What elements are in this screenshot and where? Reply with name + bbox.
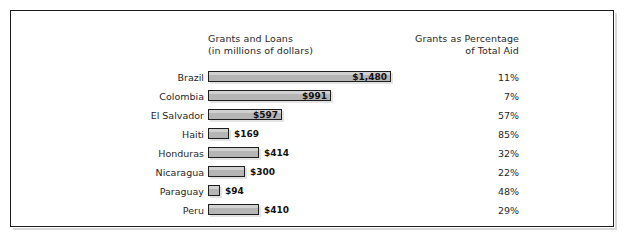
chart-row: Honduras$41432% bbox=[11, 145, 625, 164]
percent-column-header: Grants as Percentage of Total Aid bbox=[389, 33, 519, 57]
bar-value-label: $410 bbox=[264, 205, 289, 216]
country-label: Haiti bbox=[182, 129, 204, 141]
percent-value: 11% bbox=[389, 72, 519, 84]
percent-column-header-line1: Grants as Percentage bbox=[389, 33, 519, 45]
chart-row: Colombia$9917% bbox=[11, 88, 625, 107]
bar-value-label: $94 bbox=[225, 186, 244, 197]
bar-container: $597 bbox=[208, 109, 282, 124]
percent-value: 29% bbox=[389, 205, 519, 217]
chart-rows: Brazil$1,48011%Colombia$9917%El Salvador… bbox=[11, 69, 625, 221]
chart-figure: Grants and Loans (in millions of dollars… bbox=[0, 0, 625, 242]
bar-container: $169 bbox=[208, 128, 229, 143]
percent-value: 22% bbox=[389, 167, 519, 179]
bar-container: $991 bbox=[208, 90, 331, 105]
bar-value-label: $169 bbox=[234, 129, 259, 140]
bar-container: $94 bbox=[208, 185, 220, 200]
value-bar bbox=[208, 166, 245, 177]
chart-row: El Salvador$59757% bbox=[11, 107, 625, 126]
chart-row: Nicaragua$30022% bbox=[11, 164, 625, 183]
percent-value: 48% bbox=[389, 186, 519, 198]
percent-value: 85% bbox=[389, 129, 519, 141]
value-bar bbox=[208, 128, 229, 139]
country-label: Colombia bbox=[159, 91, 204, 103]
bar-container: $300 bbox=[208, 166, 245, 181]
chart-row: Haiti$16985% bbox=[11, 126, 625, 145]
country-label: El Salvador bbox=[151, 110, 204, 122]
bar-value-label: $597 bbox=[253, 110, 278, 121]
country-label: Paraguay bbox=[160, 186, 204, 198]
bar-value-label: $300 bbox=[250, 167, 275, 178]
chart-row: Brazil$1,48011% bbox=[11, 69, 625, 88]
percent-value: 32% bbox=[389, 148, 519, 160]
bar-value-label: $1,480 bbox=[352, 72, 387, 83]
country-label: Peru bbox=[183, 205, 204, 217]
value-bar bbox=[208, 185, 220, 196]
percent-value: 57% bbox=[389, 110, 519, 122]
bars-column-header-line1: Grants and Loans bbox=[208, 33, 398, 45]
country-label: Honduras bbox=[158, 148, 204, 160]
chart-frame: Grants and Loans (in millions of dollars… bbox=[10, 10, 614, 227]
bar-container: $410 bbox=[208, 204, 259, 219]
bar-value-label: $414 bbox=[264, 148, 289, 159]
value-bar bbox=[208, 147, 259, 158]
chart-row: Peru$41029% bbox=[11, 202, 625, 221]
chart-row: Paraguay$9448% bbox=[11, 183, 625, 202]
country-label: Brazil bbox=[177, 72, 204, 84]
bar-value-label: $991 bbox=[302, 91, 327, 102]
value-bar bbox=[208, 204, 259, 215]
bar-container: $1,480 bbox=[208, 71, 391, 86]
bars-column-header: Grants and Loans (in millions of dollars… bbox=[208, 33, 398, 57]
percent-value: 7% bbox=[389, 91, 519, 103]
percent-column-header-line2: of Total Aid bbox=[389, 45, 519, 57]
country-label: Nicaragua bbox=[156, 167, 204, 179]
bars-column-header-line2: (in millions of dollars) bbox=[208, 45, 398, 57]
bar-container: $414 bbox=[208, 147, 259, 162]
